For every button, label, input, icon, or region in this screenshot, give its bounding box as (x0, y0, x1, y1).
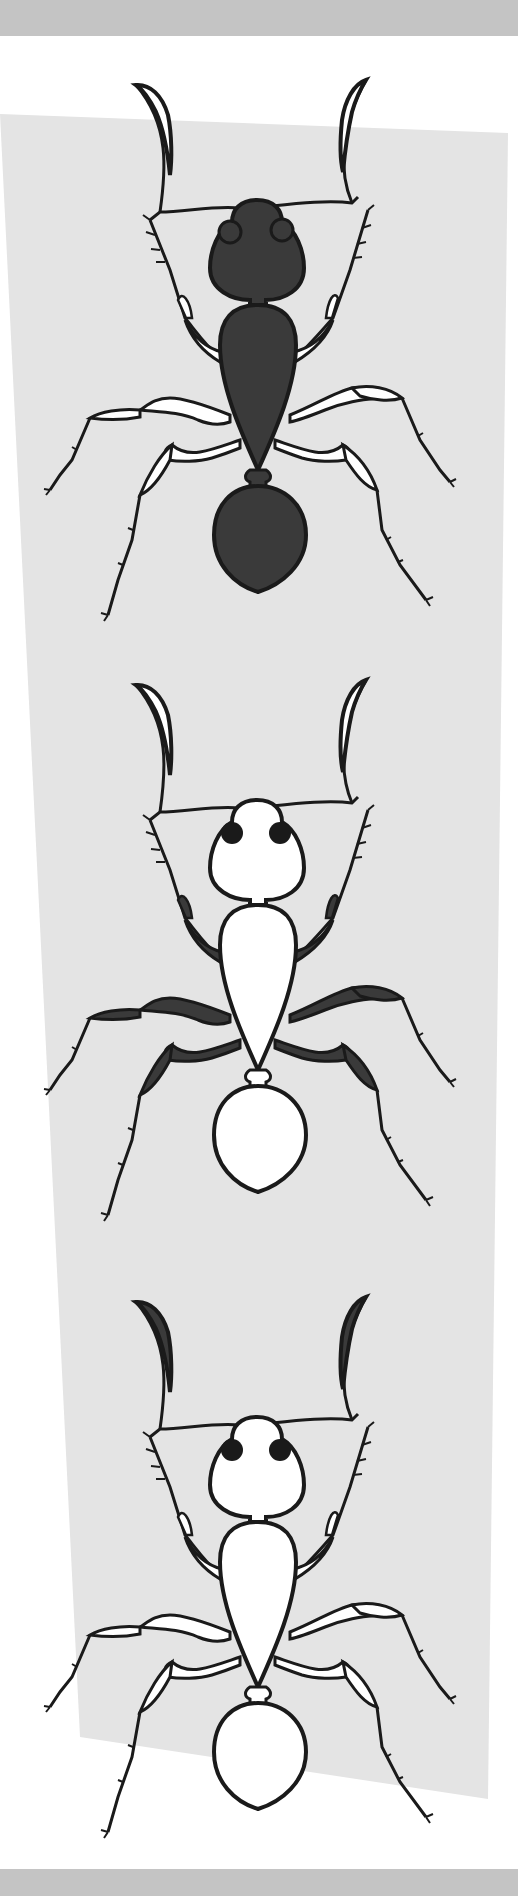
eye-right (269, 1439, 291, 1461)
eye-left (219, 221, 241, 243)
eye-left (221, 822, 243, 844)
eye-right (269, 822, 291, 844)
eye-left (221, 1439, 243, 1461)
abdomen (214, 1703, 306, 1809)
ant-illustration (0, 0, 518, 1896)
eye-right (271, 219, 293, 241)
